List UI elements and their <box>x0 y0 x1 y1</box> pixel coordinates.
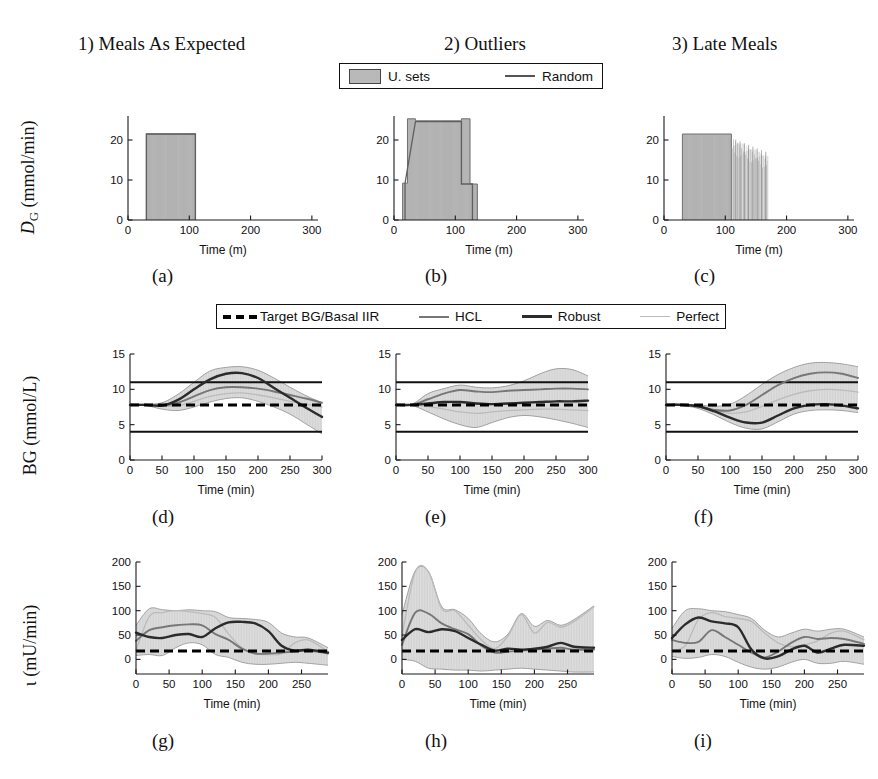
caption-c: (c) <box>694 265 715 287</box>
svg-text:300: 300 <box>578 464 597 476</box>
svg-text:100: 100 <box>193 678 212 690</box>
svg-text:250: 250 <box>558 678 577 690</box>
svg-text:50: 50 <box>699 678 712 690</box>
svg-text:20: 20 <box>646 134 659 146</box>
svg-text:200: 200 <box>514 464 533 476</box>
svg-text:0: 0 <box>391 224 397 236</box>
svg-text:100: 100 <box>180 224 199 236</box>
svg-text:100: 100 <box>112 605 131 617</box>
svg-text:0: 0 <box>133 678 139 690</box>
svg-text:0: 0 <box>661 224 667 236</box>
svg-text:50: 50 <box>429 678 442 690</box>
caption-g: (g) <box>152 730 174 752</box>
svg-text:5: 5 <box>119 419 125 431</box>
svg-text:Time (m): Time (m) <box>199 243 247 257</box>
svg-text:200: 200 <box>648 556 667 568</box>
svg-text:15: 15 <box>112 348 125 360</box>
svg-text:5: 5 <box>655 419 661 431</box>
uncertainty-set-swatch <box>349 69 381 84</box>
svg-text:300: 300 <box>312 464 331 476</box>
svg-text:50: 50 <box>118 629 131 641</box>
panel-f: 050100150200250300051015Time (min) <box>636 344 868 496</box>
svg-text:0: 0 <box>125 224 131 236</box>
svg-text:300: 300 <box>848 464 867 476</box>
svg-text:Time (min): Time (min) <box>740 697 797 711</box>
svg-text:100: 100 <box>450 464 469 476</box>
random-line-swatch <box>505 75 535 77</box>
legend-item-robust: Robust <box>522 309 601 324</box>
svg-text:50: 50 <box>163 678 176 690</box>
svg-text:0: 0 <box>655 454 661 466</box>
svg-text:10: 10 <box>376 174 389 186</box>
caption-b: (b) <box>425 265 447 287</box>
caption-i: (i) <box>694 730 712 752</box>
svg-text:100: 100 <box>459 678 478 690</box>
svg-text:200: 200 <box>112 556 131 568</box>
svg-text:300: 300 <box>302 224 321 236</box>
svg-text:250: 250 <box>280 464 299 476</box>
svg-text:100: 100 <box>716 224 735 236</box>
panel-h: 050100150200250050100150200Time (min) <box>366 552 604 710</box>
svg-text:15: 15 <box>378 348 391 360</box>
panel-g: 050100150200250050100150200Time (min) <box>100 552 338 710</box>
hcl-line-swatch <box>419 316 449 318</box>
legend-item-hcl: HCL <box>419 309 482 324</box>
svg-text:20: 20 <box>110 134 123 146</box>
svg-text:200: 200 <box>525 678 544 690</box>
panel-e: 050100150200250300051015Time (min) <box>366 344 598 496</box>
svg-text:Time (min): Time (min) <box>470 697 527 711</box>
svg-text:10: 10 <box>378 383 391 395</box>
svg-text:5: 5 <box>385 419 391 431</box>
svg-text:100: 100 <box>184 464 203 476</box>
svg-text:200: 200 <box>248 464 267 476</box>
row-ylabel-bg: BG (mmol/L) <box>20 356 41 496</box>
svg-text:150: 150 <box>216 464 235 476</box>
svg-text:0: 0 <box>117 214 123 226</box>
column-title-1: 1) Meals As Expected <box>78 33 245 55</box>
svg-text:200: 200 <box>507 224 526 236</box>
svg-text:0: 0 <box>385 454 391 466</box>
caption-h: (h) <box>425 730 447 752</box>
svg-text:200: 200 <box>784 464 803 476</box>
svg-text:0: 0 <box>663 464 669 476</box>
svg-text:100: 100 <box>446 224 465 236</box>
svg-text:50: 50 <box>654 629 667 641</box>
svg-text:150: 150 <box>492 678 511 690</box>
caption-f: (f) <box>694 506 713 528</box>
svg-text:150: 150 <box>378 580 397 592</box>
panel-a: 010020030001020Time (m) <box>100 108 328 256</box>
svg-text:0: 0 <box>399 678 405 690</box>
svg-text:10: 10 <box>646 174 659 186</box>
svg-text:50: 50 <box>422 464 435 476</box>
legend-label: HCL <box>455 309 482 324</box>
svg-text:0: 0 <box>661 653 667 665</box>
svg-text:0: 0 <box>125 653 131 665</box>
column-title-3: 3) Late Meals <box>672 33 778 55</box>
svg-text:50: 50 <box>384 629 397 641</box>
legend-label: Target BG/Basal IIR <box>260 309 379 324</box>
row-ylabel-meal: DG (mmol/min) <box>18 107 43 247</box>
legend-meal-sources: U. sets Random <box>339 63 603 89</box>
svg-text:200: 200 <box>378 556 397 568</box>
svg-text:50: 50 <box>692 464 705 476</box>
caption-e: (e) <box>425 506 446 528</box>
svg-text:10: 10 <box>112 383 125 395</box>
svg-text:50: 50 <box>156 464 169 476</box>
panel-c: 010020030001020Time (m) <box>636 108 864 256</box>
svg-text:0: 0 <box>669 678 675 690</box>
svg-text:250: 250 <box>816 464 835 476</box>
legend-label: Perfect <box>676 309 719 324</box>
caption-a: (a) <box>152 265 173 287</box>
svg-text:250: 250 <box>546 464 565 476</box>
svg-text:200: 200 <box>777 224 796 236</box>
svg-text:100: 100 <box>378 605 397 617</box>
svg-text:100: 100 <box>648 605 667 617</box>
svg-text:200: 200 <box>241 224 260 236</box>
panel-d: 050100150200250300051015Time (min) <box>100 344 332 496</box>
svg-text:Time (m): Time (m) <box>735 243 783 257</box>
svg-text:300: 300 <box>568 224 587 236</box>
row-ylabel-insulin: ι (mU/min) <box>20 576 41 716</box>
svg-text:150: 150 <box>762 678 781 690</box>
legend-label: U. sets <box>388 69 430 84</box>
svg-text:10: 10 <box>648 383 661 395</box>
